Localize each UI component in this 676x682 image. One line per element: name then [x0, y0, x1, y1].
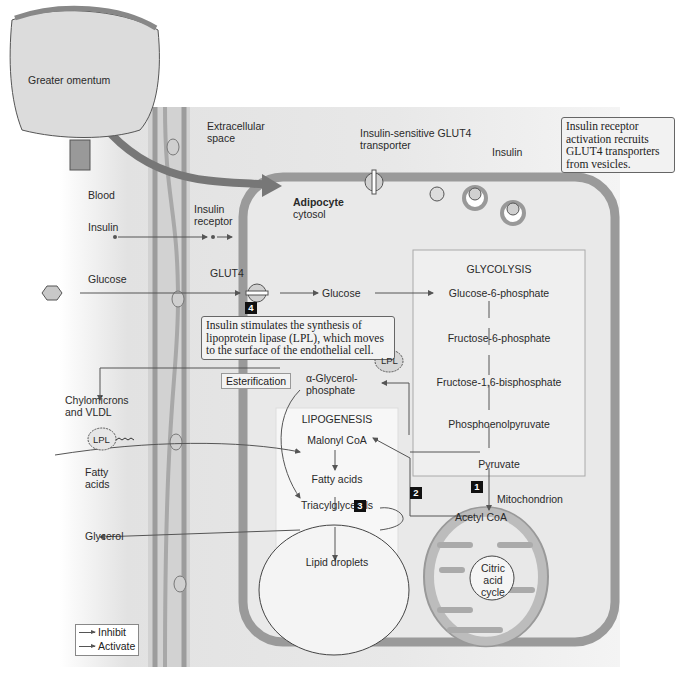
arrow-icon [79, 646, 95, 647]
chylomicrons-label: Chylomicrons and VLDL [65, 394, 125, 418]
step-4-badge: 4 [245, 302, 257, 314]
insulin-label: Insulin [88, 221, 118, 233]
fatty-acids-outside-label: Fatty acids [85, 466, 119, 490]
insulin-receptor-label: Insulin receptor [194, 203, 244, 227]
triacylglycerols-label: Triacylglycerols [276, 499, 398, 511]
glycolysis-step: Pyruvate [413, 458, 585, 470]
acetyl-coa-label: Acetyl CoA [455, 511, 507, 523]
adipocyte-title: Adipocyte [293, 196, 344, 208]
cytosol-label: cytosol [293, 208, 326, 220]
blood-label: Blood [88, 189, 115, 201]
glycolysis-step: Fructose-1,6-bisphosphate [413, 376, 585, 388]
glycolysis-step: Phosphoenolpyruvate [413, 418, 585, 430]
glycolysis-title: GLYCOLYSIS [413, 263, 585, 275]
step-3-badge: 3 [354, 500, 366, 512]
esterification-box: Esterification [221, 373, 291, 389]
lpl-outside-label: LPL [93, 434, 110, 446]
lipogenesis-title: LIPOGENESIS [276, 413, 398, 425]
extracellular-label: Extracellular space [207, 120, 267, 144]
step-1-badge: 1 [471, 481, 483, 493]
recruit-callout: Insulin receptor activation recruits GLU… [561, 117, 675, 173]
lipid-droplets-label: Lipid droplets [276, 556, 398, 568]
glycerol-outside-label: Glycerol [85, 530, 124, 542]
malonyl-coa-label: Malonyl CoA [276, 434, 398, 446]
glut4-label: GLUT4 [210, 267, 244, 279]
legend: Inhibit Activate [75, 624, 139, 656]
legend-activate: Activate [76, 639, 138, 653]
lpl-synthesis-callout: Insulin stimulates the synthesis of lipo… [201, 316, 395, 360]
mitochondrion-label: Mitochondrion [497, 493, 563, 505]
glucose-inside-label: Glucose [322, 287, 361, 299]
legend-inhibit: Inhibit [76, 625, 138, 639]
arrow-icon [79, 632, 95, 633]
insulin-top-label: Insulin [492, 146, 522, 158]
step-2-badge: 2 [410, 487, 422, 499]
glucose-label: Glucose [88, 273, 127, 285]
glycolysis-step: Fructose-6-phosphate [413, 332, 585, 344]
lpl-inside-label: LPL [381, 355, 398, 367]
citric-acid-cycle-label: Citric acid cycle [474, 562, 512, 598]
glycerol-phosphate-label: α-Glycerol-phosphate [306, 372, 366, 396]
organ-label: Greater omentum [28, 74, 110, 86]
glycolysis-step: Glucose-6-phosphate [413, 287, 585, 299]
fatty-acids-inside-label: Fatty acids [276, 473, 398, 485]
glut4-transporter-label: Insulin-sensitive GLUT4 transporter [360, 127, 475, 151]
